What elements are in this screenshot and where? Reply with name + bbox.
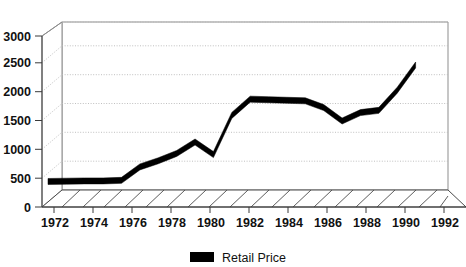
legend-swatch-retail-price — [190, 252, 214, 262]
y-tick-label-3000: 3000 — [3, 30, 31, 44]
x-tick-label-1988: 1988 — [353, 216, 381, 230]
x-tick-label-1982: 1982 — [236, 216, 264, 230]
x-tick-label-1986: 1986 — [314, 216, 342, 230]
x-tick-label-1984: 1984 — [275, 216, 303, 230]
x-tick-label-1978: 1978 — [158, 216, 186, 230]
x-tick-label-1976: 1976 — [119, 216, 147, 230]
x-axis: 1972 1974 1976 1978 1980 1982 1984 1986 … — [41, 207, 466, 230]
x-tick-label-1980: 1980 — [197, 216, 225, 230]
x-tick-label-1990: 1990 — [392, 216, 420, 230]
y-tick-label-500: 500 — [10, 172, 31, 186]
x-tick-label-1974: 1974 — [80, 216, 108, 230]
back-wall — [62, 22, 448, 190]
x-tick-label-1972: 1972 — [41, 216, 69, 230]
y-tick-label-0: 0 — [24, 201, 31, 215]
y-tick-label-1000: 1000 — [3, 143, 31, 157]
x-tick-label-1992: 1992 — [431, 216, 459, 230]
chart-3d-base — [42, 190, 466, 207]
legend-label-retail-price: Retail Price — [222, 251, 286, 265]
y-tick-label-1500: 1500 — [3, 114, 31, 128]
chart-container: 0 500 1000 1500 2000 2500 3000 — [0, 0, 466, 267]
chart-legend: Retail Price — [190, 251, 286, 265]
retail-price-line-chart: 0 500 1000 1500 2000 2500 3000 — [0, 0, 466, 267]
y-tick-label-2500: 2500 — [3, 56, 31, 70]
y-tick-label-2000: 2000 — [3, 85, 31, 99]
y-axis: 0 500 1000 1500 2000 2500 3000 — [3, 30, 42, 215]
